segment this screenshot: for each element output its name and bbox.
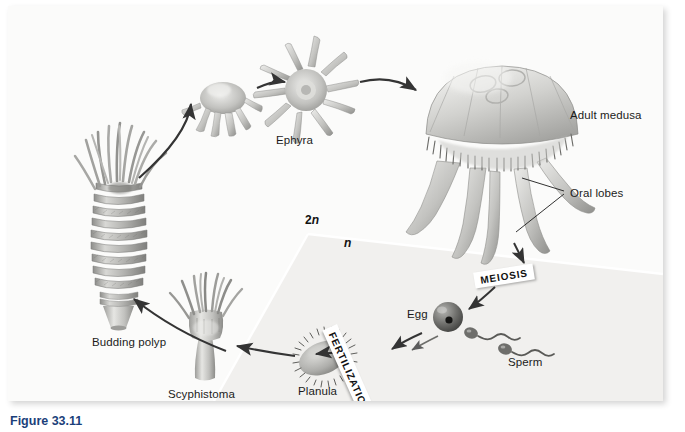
label-adult-medusa: Adult medusa: [570, 109, 642, 121]
arrow-ephyra-to-medusa: [360, 79, 416, 90]
label-planula: Planula: [298, 385, 337, 397]
label-egg: Egg: [407, 308, 428, 320]
ephyra-radial-figure: [253, 36, 359, 143]
ploidy-label-diploid: 2n: [305, 213, 319, 227]
figure-panel: 2n n MEIOSIS FERTILIZATION Budding polyp…: [8, 6, 663, 401]
label-budding-polyp: Budding polyp: [92, 336, 166, 348]
ploidy-label-haploid: n: [344, 236, 351, 250]
egg-figure: [433, 302, 463, 332]
arrow-ephyra-to-ephyra: [257, 82, 285, 88]
label-sperm: Sperm: [508, 356, 542, 368]
label-scyphistoma: Scyphistoma: [168, 388, 235, 400]
label-oral-lobes: Oral lobes: [570, 187, 623, 199]
adult-medusa-figure: [406, 62, 595, 264]
scyphistoma-figure: [170, 273, 242, 381]
label-ephyra: Ephyra: [276, 134, 313, 146]
budding-polyp-figure: [75, 123, 166, 331]
figure-caption: Figure 33.11: [10, 414, 82, 428]
ephyra-early-figure: [182, 82, 263, 137]
